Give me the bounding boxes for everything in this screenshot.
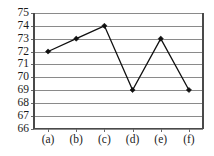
y-axis-tick-label: 74 [18,19,30,31]
y-axis-tick-label: 71 [18,57,30,69]
x-axis-tick-label: (d) [126,133,140,146]
y-axis-tick-label: 72 [18,45,30,57]
y-axis-tick-label: 70 [18,70,30,82]
chart-canvas: 75747372717069686766 (a)(b)(c)(d)(e)(f) [0,0,214,156]
y-axis-tick-label: 75 [18,6,30,18]
y-axis-tick-labels: 75747372717069686766 [18,6,30,134]
x-axis-tick-label: (a) [42,133,55,146]
y-axis-tick-label: 67 [18,109,30,121]
x-axis-tick-label: (b) [70,133,84,146]
x-axis-tick-label: (f) [183,133,195,146]
x-axis-tick-label: (e) [154,133,167,146]
line-chart-figure: 75747372717069686766 (a)(b)(c)(d)(e)(f) [0,0,214,156]
y-axis-tick-label: 73 [18,32,30,44]
y-axis-tick-label: 69 [18,83,30,95]
x-axis-tick-label: (c) [98,133,111,146]
y-axis-tick-label: 68 [18,96,30,108]
y-axis-tick-label: 66 [18,122,30,134]
